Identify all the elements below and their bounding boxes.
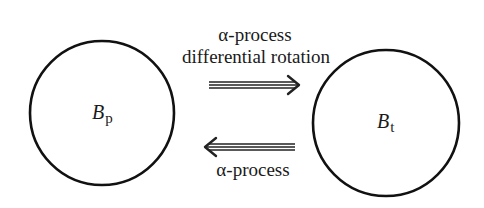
forward-arrow-icon: [209, 76, 299, 94]
toroidal-subscript: t: [390, 119, 394, 135]
forward-edge-label-line2: differential rotation: [168, 46, 344, 68]
backward-edge-label: α-process: [198, 159, 308, 181]
backward-arrow-icon: [205, 138, 295, 156]
toroidal-field-label: Bt: [377, 110, 394, 136]
forward-edge-label-line1: α-process: [200, 24, 310, 46]
poloidal-subscript: p: [105, 110, 113, 126]
poloidal-symbol: B: [92, 101, 104, 123]
poloidal-field-label: Bp: [92, 101, 113, 127]
toroidal-symbol: B: [377, 110, 389, 132]
